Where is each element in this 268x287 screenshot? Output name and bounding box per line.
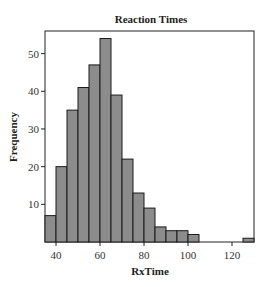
histogram-bar	[188, 234, 199, 242]
histogram-bar	[155, 227, 166, 242]
y-tick-label: 50	[28, 48, 40, 60]
x-tick-label: 40	[51, 249, 63, 261]
histogram-bar	[166, 231, 177, 242]
histogram-bar	[89, 65, 100, 242]
y-axis-label: Frequency	[7, 112, 19, 162]
histogram-bar	[56, 167, 67, 242]
histogram-bar	[243, 238, 254, 242]
chart-title: Reaction Times	[115, 13, 188, 25]
histogram-bar	[177, 231, 188, 242]
x-tick-label: 100	[180, 249, 197, 261]
x-tick-label: 80	[139, 249, 151, 261]
x-tick-label: 60	[95, 249, 107, 261]
histogram-bar	[111, 95, 122, 242]
y-tick-label: 40	[28, 85, 40, 97]
x-axis-ticks: 406080100120	[51, 242, 241, 261]
histogram-bar	[133, 193, 144, 242]
y-tick-label: 10	[28, 198, 40, 210]
histogram-bar	[122, 159, 133, 242]
x-tick-label: 120	[224, 249, 241, 261]
y-axis-ticks: 1020304050	[28, 48, 45, 211]
histogram-bar	[78, 88, 89, 242]
y-tick-label: 30	[28, 123, 40, 135]
histogram-bar	[45, 216, 56, 242]
x-axis-label: RxTime	[131, 265, 169, 277]
histogram-bar	[67, 110, 78, 242]
histogram-bar	[144, 208, 155, 242]
histogram-bar	[100, 39, 111, 242]
y-tick-label: 20	[28, 161, 40, 173]
histogram-chart: Reaction Times 406080100120 1020304050 R…	[0, 0, 268, 287]
